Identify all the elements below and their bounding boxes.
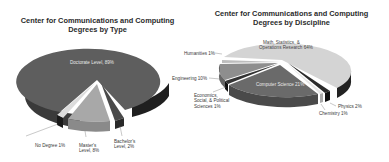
pie-type-graphic: [0, 0, 195, 162]
label-engineering: Engineering 10%: [172, 76, 207, 81]
pie-discipline-graphic: [194, 0, 389, 162]
degrees-by-type-chart: Center for Communications and Computing …: [0, 0, 195, 162]
label-masters: Master's Level, 8%: [79, 143, 99, 154]
label-cs: Computer Science 21%: [256, 82, 304, 87]
degrees-by-discipline-chart: Center for Communications and Computing …: [194, 0, 389, 162]
label-doctorate: Doctorate Level, 89%: [70, 60, 114, 65]
label-econ: Economics, Social, & Political Sciences …: [194, 93, 229, 109]
label-chemistry: Chemistry 1%: [319, 111, 348, 116]
label-no-degree: No Degree 1%: [35, 143, 65, 148]
label-humanities: Humanities 1%: [184, 51, 215, 56]
label-bachelors: Bachelor's Level, 2%: [114, 139, 135, 150]
slice-humanities: [222, 60, 280, 63]
label-math: Math, Statistics, & Operations Research …: [259, 40, 313, 51]
label-physics: Physics 2%: [338, 104, 362, 109]
